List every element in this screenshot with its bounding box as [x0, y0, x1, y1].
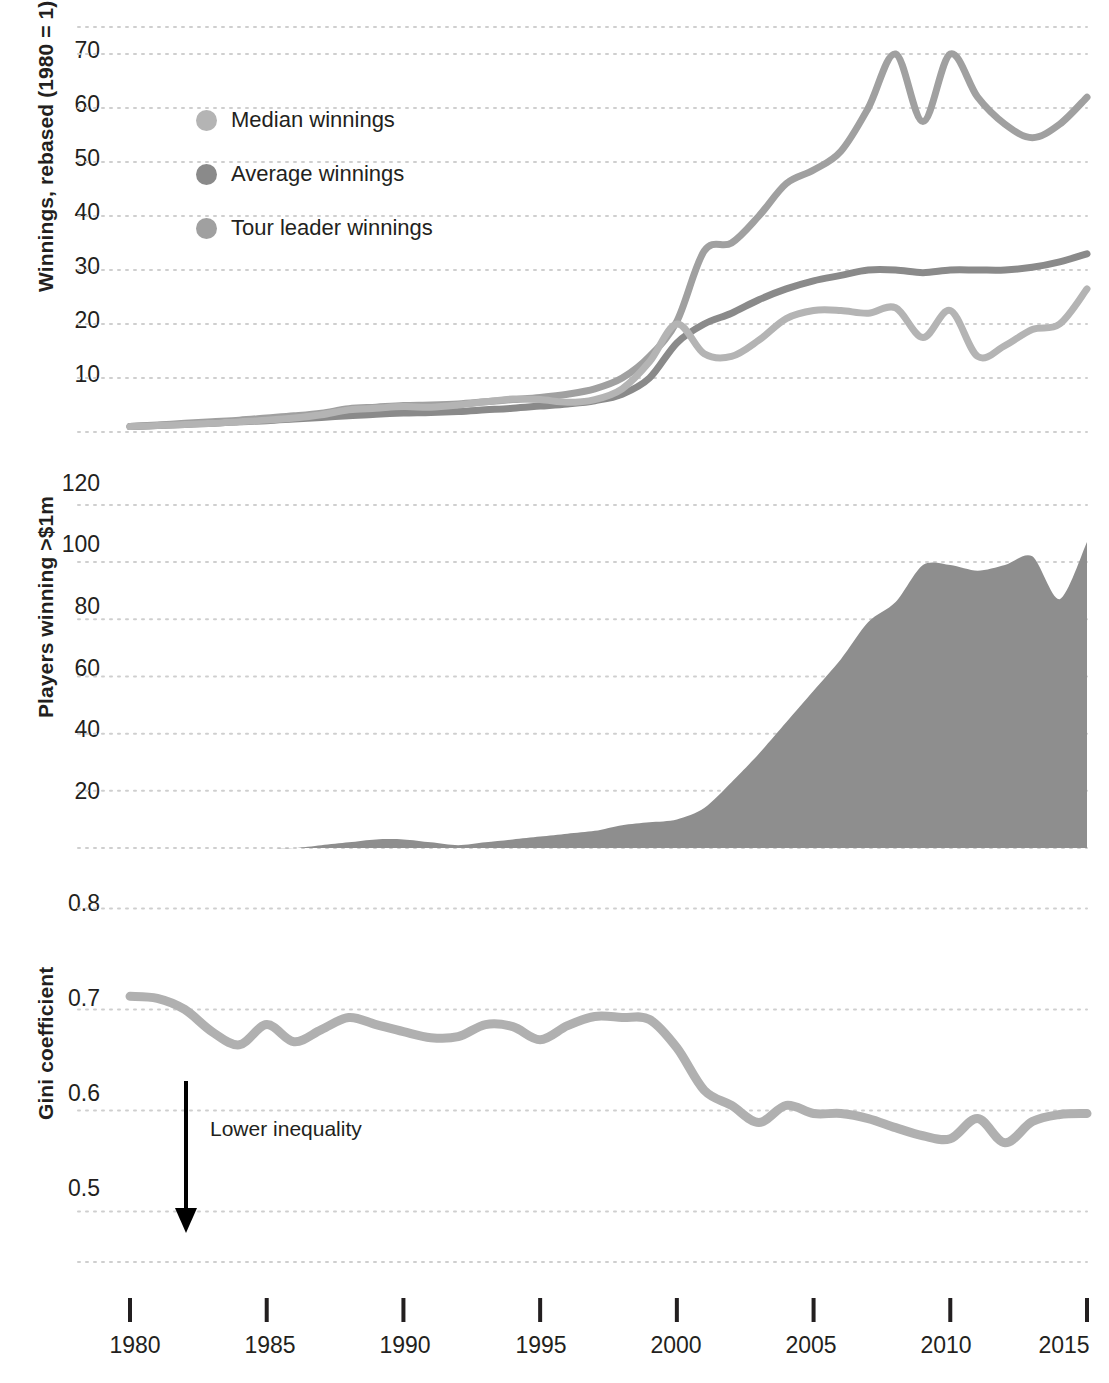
panel1-series-line-2 [130, 289, 1087, 427]
panel1-series-line-0 [130, 54, 1087, 427]
multi-panel-chart: Winnings, rebased (1980 = 1) Players win… [0, 0, 1109, 1383]
plot-canvas [0, 0, 1109, 1383]
panel1-series-line-1 [130, 254, 1087, 427]
down-arrow-icon-head [175, 1208, 197, 1233]
panel2-area-fill [130, 542, 1087, 848]
panel3-series-line-0 [130, 996, 1087, 1143]
